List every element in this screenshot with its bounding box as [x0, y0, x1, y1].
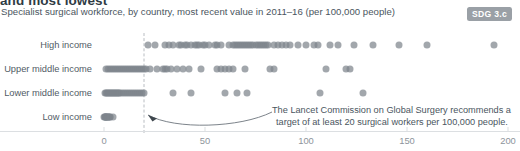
- plot-area: High incomeUpper middle incomeLower midd…: [0, 0, 520, 151]
- x-axis-tick-label: 0: [101, 135, 106, 146]
- data-point: [141, 90, 148, 97]
- data-point: [315, 42, 322, 49]
- data-point: [234, 90, 241, 97]
- data-point: [169, 90, 176, 97]
- data-point: [222, 90, 229, 97]
- data-point: [395, 42, 402, 49]
- data-point: [294, 42, 301, 49]
- data-point: [151, 42, 158, 49]
- data-point: [335, 42, 342, 49]
- annotation-line-2: target of at least 20 surgical workers p…: [276, 116, 508, 128]
- annotation-line-1: The Lancet Commission on Global Surgery …: [272, 104, 511, 116]
- data-point: [317, 90, 324, 97]
- data-point: [323, 66, 330, 73]
- data-point: [185, 66, 192, 73]
- data-point: [187, 90, 194, 97]
- data-point: [327, 42, 334, 49]
- x-axis-tick-label: 100: [298, 135, 314, 146]
- data-point: [286, 42, 293, 49]
- data-point: [424, 42, 431, 49]
- data-point: [359, 90, 366, 97]
- x-axis-tick-label: 50: [200, 135, 210, 146]
- data-point: [347, 66, 354, 73]
- x-axis-tick: [104, 127, 105, 131]
- x-axis-tick-label: 150: [399, 135, 415, 146]
- data-point: [218, 42, 225, 49]
- data-point: [490, 42, 497, 49]
- data-point: [369, 42, 376, 49]
- data-point: [303, 42, 310, 49]
- data-point: [351, 42, 358, 49]
- data-point: [242, 66, 249, 73]
- x-axis-tick: [205, 127, 206, 131]
- category-label: High income: [0, 40, 92, 50]
- data-point: [197, 66, 204, 73]
- data-point: [230, 66, 237, 73]
- chart-screenshot: and most lowest Specialist surgical work…: [0, 0, 520, 151]
- data-point: [270, 66, 277, 73]
- data-point: [244, 90, 251, 97]
- category-label: Low income: [0, 112, 92, 122]
- reference-line: [144, 33, 145, 133]
- category-label: Upper middle income: [0, 64, 92, 74]
- x-axis-tick-label: 200: [500, 135, 516, 146]
- data-point: [110, 114, 117, 121]
- category-label: Lower middle income: [0, 88, 92, 98]
- x-axis-line: [0, 131, 520, 132]
